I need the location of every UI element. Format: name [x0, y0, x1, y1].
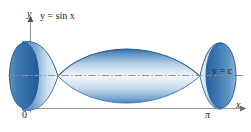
- sine-curve-label: y = sin x: [40, 11, 75, 21]
- origin-label: 0: [22, 110, 27, 120]
- x-axis-label: x: [236, 100, 240, 110]
- solid-of-revolution-figure: y x 0 π y = sin x y = c: [0, 0, 251, 132]
- y-axis-label: y: [27, 9, 31, 19]
- lens-upper-half: [58, 49, 200, 76]
- pi-tick-label: π: [205, 110, 210, 120]
- axis-of-revolution-label: y = c: [212, 66, 232, 76]
- lens-lower-half: [58, 76, 200, 103]
- x-axis-arrowhead: [240, 106, 247, 112]
